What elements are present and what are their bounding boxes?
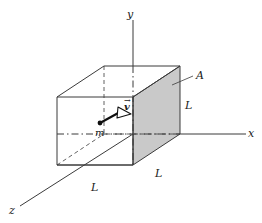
y-axis-label: y — [127, 9, 133, 20]
velocity-vector-overbar-icon: → — [124, 97, 131, 105]
cube-hidden-bottom-left-edge — [57, 134, 104, 165]
shaded-face-area-A — [133, 66, 180, 165]
side-length-label-bottom-right: L — [155, 168, 162, 179]
z-axis-line — [20, 134, 133, 206]
side-length-label-right: L — [185, 100, 192, 111]
x-axis-label: x — [248, 128, 254, 139]
area-label-A: A — [196, 70, 204, 81]
mass-label-m: m — [95, 128, 104, 138]
cube-box-diagram — [0, 0, 262, 223]
z-axis-label: z — [9, 205, 15, 216]
side-length-label-bottom-front: L — [91, 182, 98, 193]
